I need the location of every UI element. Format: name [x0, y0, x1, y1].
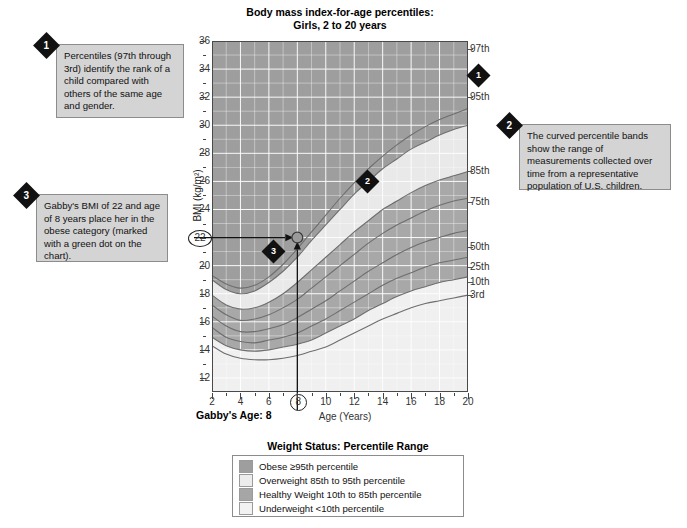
legend-item: Healthy Weight 10th to 85th percentile — [239, 488, 463, 502]
y-tick-mark — [203, 167, 206, 168]
legend-label-2: Healthy Weight 10th to 85th percentile — [259, 489, 422, 500]
callout-2-number: 2 — [507, 121, 513, 131]
percentile-leader-tick — [468, 247, 473, 248]
y-tick-mark — [203, 364, 206, 365]
x-tick-mark — [226, 393, 227, 396]
x-tick-mark — [240, 393, 241, 399]
legend-swatch-0 — [239, 460, 253, 473]
x-tick-mark — [397, 393, 398, 396]
y-tick-mark — [200, 294, 206, 295]
x-axis-title: Age (Years) — [300, 411, 390, 422]
legend-box: Obese ≥95th percentileOverweight 85th to… — [232, 455, 464, 517]
chart-plot-area — [212, 41, 468, 392]
percentile-leader-tick — [468, 171, 473, 172]
x-tick-mark — [440, 393, 441, 399]
legend-label-3: Underweight <10th percentile — [259, 503, 384, 514]
y-tick-mark — [200, 322, 206, 323]
chart-title: Body mass index-for-age percentiles: Gir… — [212, 6, 468, 32]
y-tick-mark — [203, 252, 206, 253]
x-tick-mark — [340, 393, 341, 396]
y-tick-mark — [203, 139, 206, 140]
chart-marker-1-label: 1 — [476, 71, 481, 80]
y-tick-mark — [200, 209, 206, 210]
y-tick-mark — [203, 111, 206, 112]
y-axis-title: BMI (kg/m²) — [192, 151, 203, 241]
percentile-curves-svg — [212, 41, 468, 392]
y-tick-mark — [203, 83, 206, 84]
y-tick-mark — [203, 195, 206, 196]
percentile-leader-tick — [468, 97, 473, 98]
callout-2: The curved percentile bands show the ran… — [519, 124, 671, 190]
legend-item: Overweight 85th to 95th percentile — [239, 474, 463, 488]
y-tick-mark — [203, 55, 206, 56]
x-tick-mark — [312, 393, 313, 396]
x-tick-mark — [255, 393, 256, 396]
callout-1: Percentiles (97th through 3rd) identify … — [56, 44, 184, 118]
legend-label-0: Obese ≥95th percentile — [259, 461, 358, 472]
legend-item: Underweight <10th percentile — [239, 502, 463, 516]
chart-title-line2: Girls, 2 to 20 years — [212, 19, 468, 32]
x-tick-mark — [212, 393, 213, 399]
y-tick-mark — [200, 266, 206, 267]
x-tick-mark — [326, 393, 327, 399]
y-tick-mark — [200, 378, 206, 379]
callout-3-text: Gabby's BMI of 22 and age of 8 years pla… — [44, 200, 160, 261]
percentile-leader-tick — [468, 49, 473, 50]
y-tick-mark — [203, 308, 206, 309]
y-tick-mark — [200, 69, 206, 70]
x-tick-mark — [425, 393, 426, 396]
chart-marker-3-label: 3 — [271, 247, 276, 256]
x-tick-mark — [411, 393, 412, 399]
legend-swatch-2 — [239, 488, 253, 501]
y-tick-mark — [200, 97, 206, 98]
legend-swatch-1 — [239, 474, 253, 487]
y-tick-mark — [203, 336, 206, 337]
y-tick-mark — [203, 224, 206, 225]
x-tick-mark — [283, 393, 284, 396]
legend-item: Obese ≥95th percentile — [239, 460, 463, 474]
percentile-leader-tick — [468, 295, 473, 296]
percentile-leader-tick — [468, 282, 473, 283]
callout-2-text: The curved percentile bands show the ran… — [527, 130, 652, 191]
x-tick-mark — [454, 393, 455, 396]
legend-title: Weight Status: Percentile Range — [228, 440, 468, 452]
percentile-leader-tick — [468, 202, 473, 203]
y-tick-mark — [200, 153, 206, 154]
y-tick-mark — [200, 41, 206, 42]
y-tick-mark — [203, 280, 206, 281]
percentile-labels: 97th95th85th75th50th25th10th3rd — [470, 0, 530, 400]
marked-point-dot — [292, 232, 303, 243]
x-tick-mark — [368, 393, 369, 396]
x-tick-mark — [354, 393, 355, 399]
callout-1-number: 1 — [44, 41, 50, 51]
percentile-leader-tick — [468, 267, 473, 268]
gabby-age-label: Gabby's Age: 8 — [196, 409, 272, 421]
callout-3-number: 3 — [24, 191, 30, 201]
chart-title-line1: Body mass index-for-age percentiles: — [212, 6, 468, 19]
legend-label-1: Overweight 85th to 95th percentile — [259, 475, 405, 486]
y-tick-mark — [200, 238, 206, 239]
y-tick-mark — [200, 125, 206, 126]
x-tick-mark — [383, 393, 384, 399]
x-tick-mark — [297, 393, 298, 399]
legend-swatch-3 — [239, 502, 253, 515]
x-tick-label-highlighted-8: 8 — [290, 394, 307, 411]
x-tick-mark — [269, 393, 270, 399]
y-tick-mark — [200, 350, 206, 351]
chart-marker-2-label: 2 — [365, 177, 370, 186]
callout-1-text: Percentiles (97th through 3rd) identify … — [64, 50, 171, 111]
x-tick-mark — [468, 393, 469, 399]
callout-3: Gabby's BMI of 22 and age of 8 years pla… — [36, 194, 168, 262]
y-tick-mark — [200, 181, 206, 182]
